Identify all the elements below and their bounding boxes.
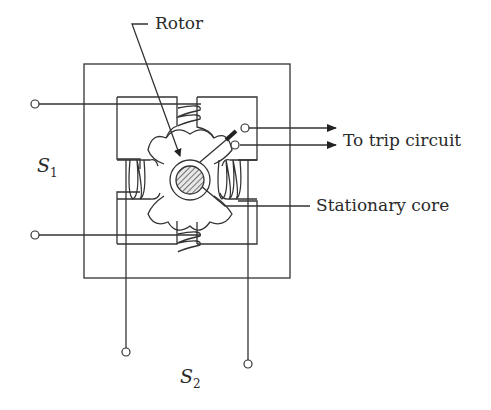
terminal-s1-bottom: [31, 231, 39, 239]
terminal-s2-left: [122, 348, 130, 356]
relay-diagram: Rotor To trip circuit Stationary core S1…: [0, 0, 491, 410]
stationary-core-label: Stationary core: [316, 195, 449, 215]
s2-label: S2: [180, 365, 201, 391]
rotor-leader: [132, 24, 180, 156]
terminal-s2-right: [244, 360, 252, 368]
core-top-left: [117, 97, 177, 169]
rotor: [176, 166, 204, 194]
fixed-contact-2: [231, 141, 239, 149]
moving-contact: [226, 131, 236, 140]
coil-left: [129, 160, 145, 199]
fixed-contact-1: [241, 124, 249, 132]
terminal-s1-top: [31, 100, 39, 108]
trip-circuit-label: To trip circuit: [343, 130, 461, 150]
s1-label: S1: [37, 154, 58, 180]
rotor-label: Rotor: [155, 13, 204, 33]
